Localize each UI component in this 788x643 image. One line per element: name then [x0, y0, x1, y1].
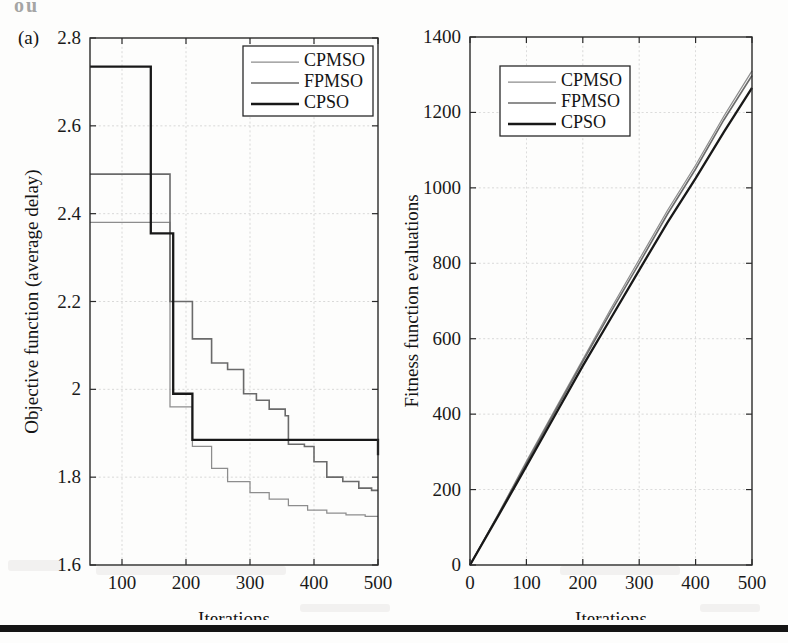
y-tick-label: 1.8 — [57, 466, 81, 487]
figure-body: 1.61.822.22.42.62.8100200300400500Iterat… — [0, 0, 788, 620]
y-tick-label: 2.8 — [57, 27, 81, 48]
x-tick-label: 100 — [512, 572, 541, 593]
y-tick-label: 800 — [433, 252, 462, 273]
y-tick-label: 1000 — [423, 177, 461, 198]
legend: CPMSOFPMSOCPSO — [243, 46, 373, 116]
x-tick-label: 200 — [569, 572, 598, 593]
series-group — [470, 71, 752, 565]
y-tick-label: 400 — [433, 403, 462, 424]
series-group — [90, 67, 378, 517]
x-tick-label: 300 — [625, 572, 654, 593]
y-tick-label: 1400 — [423, 26, 461, 47]
y-tick-label: 1.6 — [57, 554, 81, 575]
chart-panel-fitness: 0200400600800100012001400010020030040050… — [392, 0, 788, 620]
x-tick-label: 500 — [364, 572, 393, 593]
y-tick-label: 1200 — [423, 101, 461, 122]
x-tick-label: 100 — [108, 572, 137, 593]
x-tick-label: 500 — [738, 572, 767, 593]
y-tick-label: 600 — [433, 328, 462, 349]
y-tick-label: 2.6 — [57, 115, 81, 136]
series-line-cpso — [90, 67, 378, 456]
legend-label-cpmso: CPMSO — [304, 50, 365, 70]
x-tick-label: 300 — [236, 572, 265, 593]
legend-label-fpmso: FPMSO — [561, 91, 620, 111]
legend-label-fpmso: FPMSO — [304, 71, 363, 91]
gridlines — [90, 38, 378, 565]
y-tick-label: 0 — [452, 554, 462, 575]
figure-page: ou 1.61.822.22.42.62.8100200300400500Ite… — [0, 0, 788, 643]
x-tick-label: 0 — [465, 572, 475, 593]
x-tick-label: 200 — [172, 572, 201, 593]
objective-convergence-chart: 1.61.822.22.42.62.8100200300400500Iterat… — [0, 0, 400, 620]
y-tick-label: 200 — [433, 479, 462, 500]
plot-frame — [90, 38, 378, 565]
y-tick-label: 2.4 — [57, 203, 81, 224]
legend-label-cpso: CPSO — [304, 92, 349, 112]
series-line-cpso — [470, 88, 752, 565]
series-line-fpmso — [90, 174, 378, 490]
x-tick-label: 400 — [300, 572, 329, 593]
panel-tag-a: (a) — [18, 27, 39, 49]
chart-panel-objective: 1.61.822.22.42.62.8100200300400500Iterat… — [0, 0, 400, 620]
x-tick-label: 400 — [681, 572, 710, 593]
fitness-evaluations-chart: 0200400600800100012001400010020030040050… — [392, 0, 788, 620]
y-tick-label: 2 — [72, 378, 82, 399]
y-axis-title: Fitness function evaluations — [401, 194, 422, 407]
footer-rule — [0, 625, 788, 632]
legend: CPMSOFPMSOCPSO — [500, 66, 630, 136]
axis-frame — [90, 38, 378, 565]
y-tick-label: 2.2 — [57, 291, 81, 312]
legend-label-cpmso: CPMSO — [561, 70, 622, 90]
x-axis-title: Iterations — [198, 608, 270, 620]
legend-label-cpso: CPSO — [561, 112, 606, 132]
y-axis-title: Objective function (average delay) — [21, 169, 43, 433]
x-axis-title: Iterations — [575, 608, 647, 620]
